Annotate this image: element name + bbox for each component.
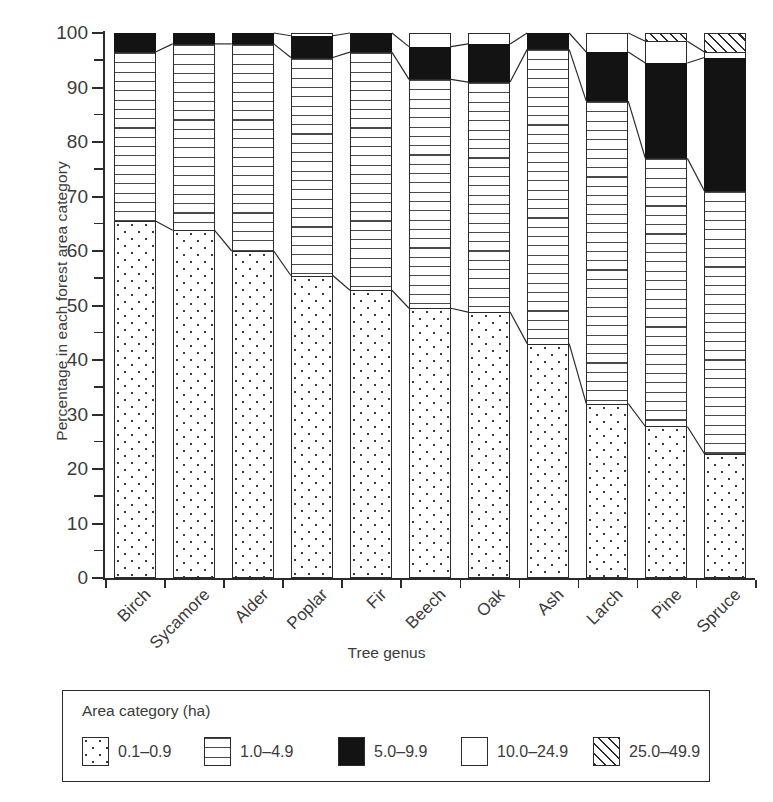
y-tick-label-50: 50 bbox=[67, 295, 88, 317]
bar-segment-sycamore-0.1_0.9 bbox=[173, 230, 215, 578]
bar-poplar[interactable] bbox=[291, 33, 333, 578]
y-tick-65 bbox=[94, 223, 103, 225]
x-tick-3 bbox=[282, 580, 284, 588]
legend-title: Area category (ha) bbox=[82, 702, 210, 720]
connector-line bbox=[451, 308, 468, 312]
x-tick-8 bbox=[578, 580, 580, 588]
y-tick-label-60: 60 bbox=[67, 240, 88, 262]
y-tick-50 bbox=[92, 305, 103, 307]
connector-line bbox=[687, 158, 704, 191]
x-label-alder: Alder bbox=[231, 585, 273, 627]
y-tick-label-80: 80 bbox=[67, 131, 88, 153]
x-tick-1 bbox=[164, 580, 166, 588]
chart-figure: Percentage in each forest area category … bbox=[0, 0, 773, 802]
y-tick-label-0: 0 bbox=[77, 567, 88, 589]
bar-segment-alder-0.1_0.9 bbox=[232, 251, 274, 578]
x-label-oak: Oak bbox=[473, 585, 509, 621]
x-tick-7 bbox=[519, 580, 521, 588]
bar-birch[interactable] bbox=[114, 33, 156, 578]
y-tick-label-30: 30 bbox=[67, 404, 88, 426]
y-tick-40 bbox=[92, 359, 103, 361]
y-tick-0 bbox=[92, 577, 103, 579]
y-tick-label-20: 20 bbox=[67, 458, 88, 480]
connector-line bbox=[569, 344, 586, 404]
y-tick-label-70: 70 bbox=[67, 186, 88, 208]
legend-swatch-dots-icon bbox=[82, 737, 109, 766]
bar-spruce[interactable] bbox=[704, 33, 746, 578]
y-tick-label-10: 10 bbox=[67, 513, 88, 535]
bar-segment-pine-0.1_0.9 bbox=[645, 426, 687, 578]
bar-pine[interactable] bbox=[645, 33, 687, 578]
y-tick-25 bbox=[94, 441, 103, 443]
connector-line bbox=[333, 276, 350, 291]
y-tick-60 bbox=[92, 250, 103, 252]
bar-segment-beech-1.0_4.9 bbox=[409, 79, 451, 308]
x-tick-11 bbox=[755, 580, 757, 588]
x-tick-4 bbox=[341, 580, 343, 588]
y-tick-55 bbox=[94, 277, 103, 279]
legend-swatch-solid-black-icon bbox=[338, 737, 365, 766]
connector-line bbox=[628, 101, 645, 158]
bar-segment-spruce-1.0_4.9 bbox=[704, 191, 746, 454]
y-tick-20 bbox=[92, 468, 103, 470]
plot-area: 0102030405060708090100 bbox=[103, 33, 753, 578]
y-tick-80 bbox=[92, 141, 103, 143]
connector-line bbox=[510, 312, 527, 344]
x-tick-0 bbox=[105, 580, 107, 588]
legend-item-25.0_49.9[interactable]: 25.0–49.9 bbox=[593, 737, 700, 766]
y-tick-label-40: 40 bbox=[67, 349, 88, 371]
x-label-spruce: Spruce bbox=[693, 585, 745, 637]
bar-fir[interactable] bbox=[350, 33, 392, 578]
legend-swatch-diagonal-hatch-icon bbox=[593, 737, 620, 766]
x-label-larch: Larch bbox=[583, 585, 627, 629]
bar-segment-larch-0.1_0.9 bbox=[586, 404, 628, 578]
y-tick-label-100: 100 bbox=[56, 22, 88, 44]
connector-line bbox=[392, 290, 409, 308]
bar-ash[interactable] bbox=[527, 33, 569, 578]
legend-item-1.0_4.9[interactable]: 1.0–4.9 bbox=[204, 737, 293, 766]
connector-line bbox=[156, 221, 173, 230]
x-axis-tick-labels: BirchSycamoreAlderPoplarFirBeechOakAshLa… bbox=[103, 0, 753, 100]
connector-line bbox=[628, 404, 645, 427]
legend-label: 5.0–9.9 bbox=[374, 743, 427, 761]
bar-segment-birch-0.1_0.9 bbox=[114, 221, 156, 578]
legend-swatch-horizontal-lines-icon bbox=[204, 737, 231, 766]
bar-alder[interactable] bbox=[232, 33, 274, 578]
bar-beech[interactable] bbox=[409, 33, 451, 578]
bar-oak[interactable] bbox=[468, 33, 510, 578]
connector-line bbox=[215, 230, 232, 251]
legend-label: 10.0–24.9 bbox=[497, 743, 568, 761]
x-label-ash: Ash bbox=[533, 585, 568, 620]
y-tick-5 bbox=[94, 550, 103, 552]
bar-segment-oak-0.1_0.9 bbox=[468, 312, 510, 578]
bar-segment-oak-1.0_4.9 bbox=[468, 82, 510, 312]
x-label-poplar: Poplar bbox=[283, 585, 332, 634]
legend-item-5.0_9.9[interactable]: 5.0–9.9 bbox=[338, 737, 427, 766]
bar-segment-spruce-0.1_0.9 bbox=[704, 454, 746, 578]
legend-swatch-white-icon bbox=[461, 737, 488, 766]
bar-sycamore[interactable] bbox=[173, 33, 215, 578]
y-tick-75 bbox=[94, 168, 103, 170]
x-label-beech: Beech bbox=[402, 585, 450, 633]
y-tick-15 bbox=[94, 495, 103, 497]
bar-segment-poplar-0.1_0.9 bbox=[291, 276, 333, 578]
x-label-pine: Pine bbox=[648, 585, 686, 623]
y-tick-70 bbox=[92, 196, 103, 198]
bar-larch[interactable] bbox=[586, 33, 628, 578]
y-tick-30 bbox=[92, 414, 103, 416]
legend-item-10.0_24.9[interactable]: 10.0–24.9 bbox=[461, 737, 568, 766]
connector-line bbox=[274, 251, 291, 276]
legend: Area category (ha) 0.1–0.91.0–4.95.0–9.9… bbox=[62, 690, 710, 782]
y-tick-label-90: 90 bbox=[67, 77, 88, 99]
y-tick-10 bbox=[92, 523, 103, 525]
y-tick-95 bbox=[94, 59, 103, 61]
x-axis-title: Tree genus bbox=[0, 644, 773, 662]
legend-label: 0.1–0.9 bbox=[118, 743, 171, 761]
legend-item-0.1_0.9[interactable]: 0.1–0.9 bbox=[82, 737, 171, 766]
x-tick-5 bbox=[400, 580, 402, 588]
y-tick-100 bbox=[92, 32, 103, 34]
connector-line bbox=[687, 426, 704, 453]
y-tick-45 bbox=[94, 332, 103, 334]
bar-segment-ash-0.1_0.9 bbox=[527, 344, 569, 578]
x-tick-6 bbox=[460, 580, 462, 588]
